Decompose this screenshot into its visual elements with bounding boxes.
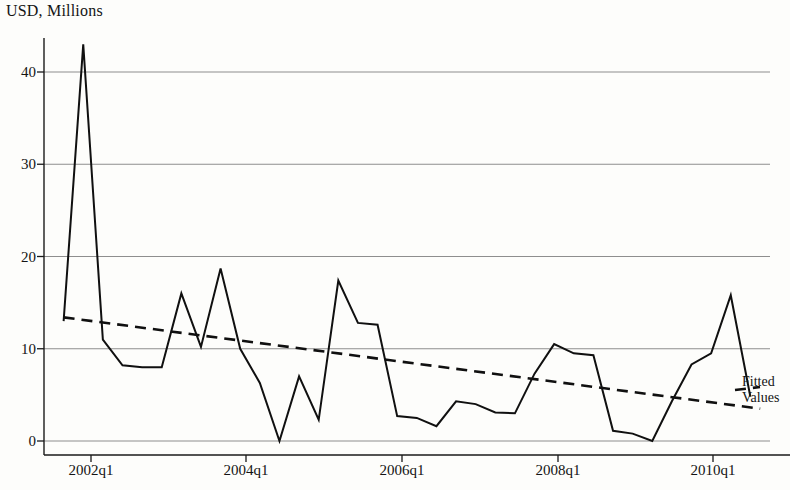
chart-container: USD, Millions 0 10 20 30 40 2002q1 2004q… [0, 0, 790, 490]
axis-lines [44, 38, 790, 455]
axis-tick-marks [37, 72, 713, 462]
legend-dash-swatch [735, 387, 760, 390]
plot-svg [0, 0, 790, 490]
series-line-actual [64, 44, 751, 441]
series-line-fitted-values [64, 317, 761, 408]
gridlines [44, 72, 770, 441]
